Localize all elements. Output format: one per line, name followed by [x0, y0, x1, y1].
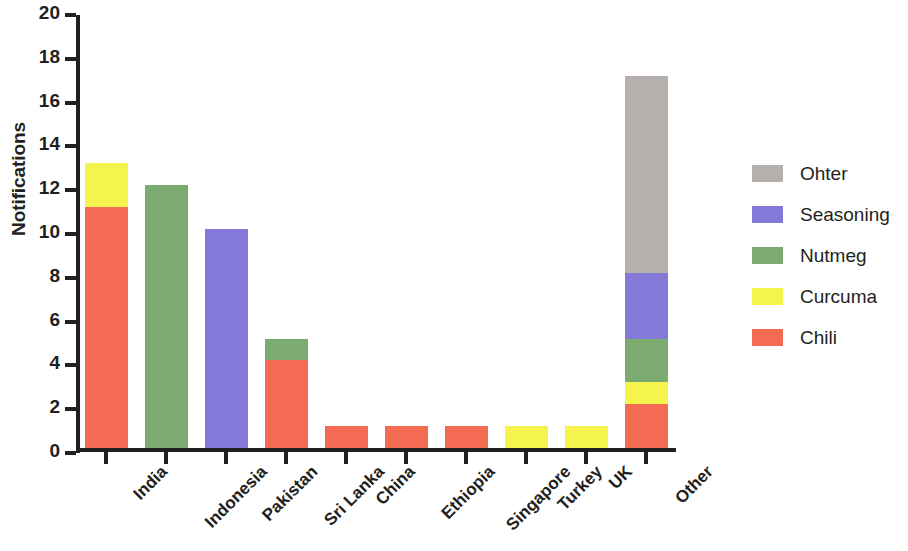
bar-segment — [445, 426, 488, 448]
y-axis-tick-label: 18 — [39, 47, 60, 67]
bar-segment — [265, 339, 308, 361]
y-axis-tick: 2 — [65, 407, 76, 411]
bar-segment — [625, 382, 668, 404]
y-axis-tick: 14 — [65, 144, 76, 148]
bar-group — [625, 76, 668, 448]
x-axis-label: India — [130, 462, 172, 504]
bar-segment — [565, 426, 608, 448]
legend-color-swatch — [752, 329, 783, 346]
y-axis-tick: 12 — [65, 188, 76, 192]
bar-segment — [505, 426, 548, 448]
bar-segment — [145, 185, 188, 448]
y-axis-tick-label: 20 — [39, 3, 60, 23]
legend-label: Seasoning — [800, 205, 890, 224]
bar-group — [85, 163, 128, 448]
bar-group — [145, 185, 188, 448]
y-axis-line — [76, 15, 80, 453]
legend-label: Nutmeg — [800, 246, 867, 265]
legend-label: Ohter — [800, 164, 848, 183]
y-axis-tick-label: 8 — [49, 266, 60, 286]
plot-area: 02468101214161820 — [76, 10, 676, 452]
y-axis-tick-label: 0 — [49, 441, 60, 461]
y-axis-tick: 10 — [65, 232, 76, 236]
legend-item[interactable]: Ohter — [752, 164, 848, 182]
y-axis-tick: 8 — [65, 276, 76, 280]
x-axis-label: UK — [605, 462, 637, 494]
legend-item[interactable]: Seasoning — [752, 205, 890, 223]
legend-item[interactable]: Chili — [752, 328, 837, 346]
x-axis-label: Indonesia — [201, 462, 271, 532]
y-axis-tick-label: 2 — [49, 397, 60, 417]
legend-item[interactable]: Curcuma — [752, 287, 877, 305]
legend-label: Chili — [800, 328, 837, 347]
x-axis-labels: IndiaIndonesiaPakistanSri LankaChinaEthi… — [76, 452, 676, 551]
bar-group — [325, 426, 368, 448]
bar-group — [265, 339, 308, 449]
y-axis-tick-label: 6 — [49, 310, 60, 330]
y-axis-tick-label: 4 — [49, 353, 60, 373]
legend-color-swatch — [752, 206, 783, 223]
y-axis-tick-label: 14 — [39, 134, 60, 154]
y-axis-tick: 4 — [65, 363, 76, 367]
y-axis-tick-label: 10 — [39, 222, 60, 242]
bar-segment — [325, 426, 368, 448]
bar-segment — [625, 404, 668, 448]
y-axis-tick: 6 — [65, 320, 76, 324]
bar-group — [385, 426, 428, 448]
legend-item[interactable]: Nutmeg — [752, 246, 867, 264]
legend-color-swatch — [752, 165, 783, 182]
bar-segment — [625, 339, 668, 383]
y-axis-tick-label: 12 — [39, 178, 60, 198]
legend-color-swatch — [752, 247, 783, 264]
bar-segment — [625, 273, 668, 339]
bar-segment — [205, 229, 248, 448]
y-axis-tick: 18 — [65, 57, 76, 61]
bar-segment — [265, 360, 308, 448]
y-axis-tick-label: 16 — [39, 91, 60, 111]
bar-group — [205, 229, 248, 448]
bar-group — [505, 426, 548, 448]
bar-segment — [85, 163, 128, 207]
y-axis-title: Notifications — [8, 114, 30, 244]
y-axis-tick: 0 — [65, 451, 76, 455]
y-axis-tick: 20 — [65, 13, 76, 17]
bar-segment — [385, 426, 428, 448]
bar-segment — [85, 207, 128, 448]
bar-group — [445, 426, 488, 448]
bar-segment — [625, 76, 668, 273]
legend-color-swatch — [752, 288, 783, 305]
bar-group — [565, 426, 608, 448]
x-axis-label: Pakistan — [258, 462, 322, 526]
y-axis-tick: 16 — [65, 101, 76, 105]
legend-label: Curcuma — [800, 287, 877, 306]
x-axis-label: Ethiopia — [438, 462, 500, 524]
bar-chart: Notifications 02468101214161820 IndiaInd… — [0, 0, 908, 551]
x-axis-label: Other — [671, 462, 717, 508]
